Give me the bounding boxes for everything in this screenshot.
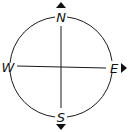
east-arrow-icon [121, 63, 127, 73]
east-label: E [110, 61, 119, 76]
west-label: W [2, 60, 16, 75]
north-arrow-icon [56, 2, 66, 8]
compass-diagram: N S W E [0, 0, 138, 132]
south-label: S [57, 110, 65, 125]
north-label: N [56, 10, 66, 25]
